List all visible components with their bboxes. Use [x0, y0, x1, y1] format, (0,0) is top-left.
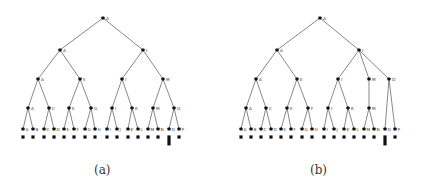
leaf-node	[383, 127, 386, 130]
square-marker	[249, 135, 252, 138]
leaf-node	[259, 127, 262, 130]
tree-node	[326, 106, 329, 109]
tall-bar-marker	[383, 135, 386, 145]
node-label: A	[41, 77, 44, 82]
leaf-label: P	[397, 127, 400, 132]
leaf-node	[93, 127, 96, 130]
tree-edge	[103, 18, 143, 50]
leaf-node	[115, 127, 118, 130]
leaf-node	[393, 127, 396, 130]
tree-edge	[287, 79, 297, 108]
leaf-label: D	[273, 127, 276, 132]
leaf-node	[126, 127, 129, 130]
tree-node	[47, 106, 50, 109]
tree-edge	[256, 50, 277, 79]
node-label: A	[31, 106, 34, 111]
tree-panel-b: AAIAEIMOACEFIKMABCDEFGHIJKLMNOP	[239, 16, 400, 146]
square-marker	[21, 135, 24, 138]
leaf-node	[83, 127, 86, 130]
leaf-label: H	[97, 127, 100, 132]
leaf-label: F	[293, 127, 296, 132]
tree-edge	[320, 18, 359, 50]
leaf-edge	[385, 79, 389, 129]
square-marker	[72, 135, 75, 138]
node-label: O	[177, 106, 181, 111]
tree-edge	[122, 50, 143, 79]
tree-edge	[143, 50, 163, 79]
tree-node	[306, 106, 309, 109]
leaf-edge	[69, 108, 74, 129]
tree-node	[295, 77, 298, 80]
tree-node	[161, 77, 164, 80]
square-marker	[136, 135, 139, 138]
leaf-node	[300, 127, 303, 130]
leaf-node	[156, 127, 159, 130]
leaf-node	[31, 127, 34, 130]
leaf-label: C	[263, 127, 266, 132]
node-label: G	[94, 106, 97, 111]
leaf-label: M	[366, 127, 370, 132]
tree-node	[78, 77, 81, 80]
leaf-node	[322, 127, 325, 130]
tree-node	[346, 106, 349, 109]
node-label: I	[362, 48, 363, 53]
tree-edge	[338, 50, 359, 79]
leaf-label: I	[326, 127, 327, 132]
leaf-label: N	[376, 127, 379, 132]
node-label: A	[249, 106, 252, 111]
square-marker	[279, 135, 282, 138]
node-label: A	[323, 16, 326, 21]
tree-edge	[256, 79, 266, 108]
leaf-label: O	[171, 127, 175, 132]
leaf-node	[105, 127, 108, 130]
node-label: A	[63, 48, 66, 53]
square-marker	[372, 135, 375, 138]
square-marker	[332, 135, 335, 138]
leaf-label: L	[140, 127, 143, 132]
tree-edge	[80, 79, 91, 108]
node-label: A	[280, 48, 283, 53]
square-marker	[156, 135, 159, 138]
tree-node	[151, 106, 154, 109]
leaf-node	[249, 127, 252, 130]
leaf-label: B	[253, 127, 256, 132]
leaf-label: J	[118, 127, 120, 132]
leaf-label: K	[130, 127, 133, 132]
node-label: E	[290, 106, 293, 111]
tree-node	[101, 16, 104, 19]
square-marker	[259, 135, 262, 138]
node-label: E	[83, 77, 86, 82]
square-marker	[269, 135, 272, 138]
square-marker	[93, 135, 96, 138]
square-marker	[62, 135, 65, 138]
node-label: A	[106, 16, 109, 21]
tree-node	[275, 48, 278, 51]
leaf-edge	[389, 79, 395, 129]
leaf-edge	[287, 108, 291, 129]
leaf-node	[167, 127, 170, 130]
leaf-node	[42, 127, 45, 130]
tree-edge	[69, 79, 80, 108]
square-marker	[362, 135, 365, 138]
leaf-node	[21, 127, 24, 130]
leaf-label: H	[314, 127, 317, 132]
tree-edge	[38, 50, 60, 79]
leaf-edge	[266, 108, 271, 129]
node-label: K	[351, 106, 354, 111]
tall-bar-marker	[167, 135, 170, 145]
tree-node	[336, 77, 339, 80]
square-marker	[42, 135, 45, 138]
leaf-label: A	[243, 127, 246, 132]
square-marker	[83, 135, 86, 138]
tree-node	[254, 77, 257, 80]
tree-panel-a: AAIAEIMACEGIKMOABCDEFGHIJKLMNOP	[21, 16, 184, 146]
node-label: F	[311, 106, 314, 111]
leaf-node	[52, 127, 55, 130]
leaf-node	[62, 127, 65, 130]
leaf-label: N	[160, 127, 163, 132]
tree-edge	[38, 79, 49, 108]
tree-node	[120, 77, 123, 80]
leaf-label: K	[346, 127, 349, 132]
square-marker	[322, 135, 325, 138]
node-label: M	[372, 106, 376, 111]
